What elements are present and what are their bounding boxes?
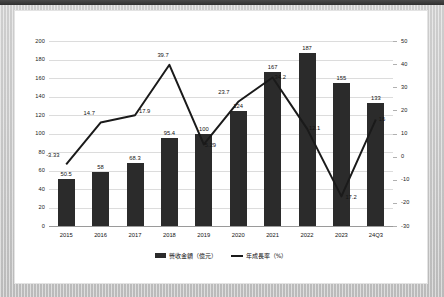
- line-value-label: -3.33: [46, 152, 59, 158]
- chart-plot-area: 020406080100120140160180200 -30-20-10010…: [15, 11, 427, 283]
- line-swatch-icon: [231, 255, 243, 257]
- category-label: 2015: [50, 232, 82, 238]
- legend-label-revenue: 營收金額（億元）: [169, 251, 217, 260]
- bar-value-label: 133: [360, 95, 392, 101]
- category-label: 2018: [153, 232, 185, 238]
- line-value-label: 5.29: [205, 142, 216, 148]
- category-label: 2019: [188, 232, 220, 238]
- legend-item-revenue[interactable]: 營收金額（億元）: [155, 251, 217, 260]
- bar-value-label: 155: [325, 75, 357, 81]
- line-value-label: 17.9: [139, 108, 150, 114]
- chart-legend: 營收金額（億元） 年成長率（%）: [15, 251, 427, 260]
- category-label: 2017: [119, 232, 151, 238]
- window-top-bar: [0, 0, 444, 5]
- category-label: 2021: [257, 232, 289, 238]
- x-axis-line: [49, 226, 393, 227]
- bar-value-label: 124: [222, 103, 254, 109]
- legend-item-growth[interactable]: 年成長率（%）: [231, 251, 288, 260]
- line-value-label: 17.2: [345, 194, 356, 200]
- line-value-label: 14.7: [84, 110, 95, 116]
- bar-value-label: 68.3: [119, 155, 151, 161]
- bar-value-label: 100: [188, 126, 220, 132]
- line-value-label: 34.2: [275, 74, 286, 80]
- line-value-label: 23.7: [218, 89, 229, 95]
- category-label: 2016: [85, 232, 117, 238]
- bar-value-label: 50.5: [50, 171, 82, 177]
- category-label: 2020: [222, 232, 254, 238]
- line-value-label: 12.1: [309, 125, 320, 131]
- bar-value-label: 58: [85, 164, 117, 170]
- chart-card: 020406080100120140160180200 -30-20-10010…: [15, 11, 427, 283]
- line-value-label: 39.7: [157, 52, 168, 58]
- bar-swatch-icon: [155, 253, 166, 258]
- bar-value-label: 187: [291, 45, 323, 51]
- bar-value-label: 95.4: [153, 130, 185, 136]
- category-label: 2022: [291, 232, 323, 238]
- line-value-label: 16: [379, 116, 385, 122]
- category-label: 2023: [325, 232, 357, 238]
- growth-line: [66, 65, 376, 197]
- line-series: [15, 11, 427, 283]
- bar-value-label: 167: [257, 64, 289, 70]
- legend-label-growth: 年成長率（%）: [246, 251, 288, 260]
- category-label: 24Q3: [360, 232, 392, 238]
